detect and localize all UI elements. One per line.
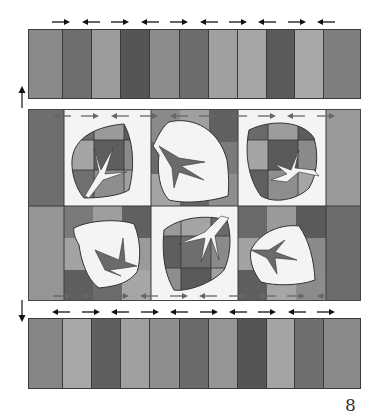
arrow-right-icon bbox=[317, 309, 335, 315]
stripe-10 bbox=[295, 319, 324, 388]
stripe-5 bbox=[150, 319, 180, 388]
arrow-left-icon bbox=[111, 309, 129, 315]
arrow-left-icon bbox=[288, 309, 306, 315]
stripe-4 bbox=[121, 319, 150, 388]
arrow-left-icon bbox=[317, 19, 335, 25]
page-number: 8 bbox=[345, 395, 356, 415]
stripe-1 bbox=[29, 319, 63, 388]
arrow-right-icon bbox=[141, 309, 159, 315]
arrow-right-icon bbox=[170, 19, 188, 25]
arrow-right-icon bbox=[258, 309, 276, 315]
bottom-stripe-strip bbox=[28, 318, 361, 389]
arrow-right-icon bbox=[52, 19, 70, 25]
stripe-1 bbox=[29, 30, 63, 98]
leaf-quilt-blocks bbox=[29, 110, 361, 301]
stripe-6 bbox=[180, 319, 209, 388]
stripe-3 bbox=[92, 30, 122, 98]
stripe-2 bbox=[63, 30, 92, 98]
arrow-left-icon bbox=[141, 19, 159, 25]
arrow-up-icon bbox=[17, 86, 27, 108]
arrow-right-icon bbox=[200, 309, 218, 315]
stripe-7 bbox=[209, 30, 238, 98]
stripe-3 bbox=[92, 319, 122, 388]
arrow-left-icon bbox=[52, 309, 70, 315]
arrow-left-icon bbox=[200, 19, 218, 25]
bottom-strip-direction-arrows bbox=[0, 306, 379, 318]
stripe-9 bbox=[267, 319, 296, 388]
stripe-5 bbox=[150, 30, 180, 98]
stripe-10 bbox=[295, 30, 324, 98]
top-strip-direction-arrows bbox=[0, 16, 379, 28]
arrow-right-icon bbox=[229, 19, 247, 25]
stripe-9 bbox=[267, 30, 296, 98]
arrow-right-icon bbox=[288, 19, 306, 25]
stripe-11 bbox=[324, 319, 360, 388]
stripe-4 bbox=[121, 30, 150, 98]
arrow-left-icon bbox=[229, 309, 247, 315]
stripe-8 bbox=[238, 30, 267, 98]
stripe-8 bbox=[238, 319, 267, 388]
top-stripe-strip bbox=[28, 29, 361, 99]
stripe-6 bbox=[180, 30, 209, 98]
arrow-left-icon bbox=[82, 19, 100, 25]
arrow-right-icon bbox=[111, 19, 129, 25]
arrow-right-icon bbox=[82, 309, 100, 315]
arrow-left-icon bbox=[170, 309, 188, 315]
stripe-7 bbox=[209, 319, 238, 388]
arrow-left-icon bbox=[258, 19, 276, 25]
leaf-block-panel bbox=[28, 109, 361, 301]
stripe-11 bbox=[324, 30, 360, 98]
stripe-2 bbox=[63, 319, 92, 388]
